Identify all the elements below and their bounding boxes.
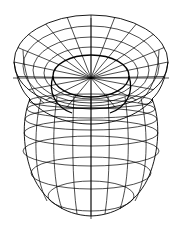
wireframe-canvas — [0, 0, 181, 231]
wireframe-figure — [0, 0, 181, 231]
